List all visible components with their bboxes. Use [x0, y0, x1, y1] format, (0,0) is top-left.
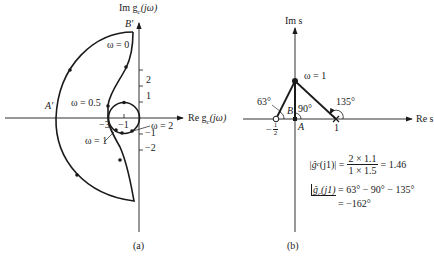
point-a-prime-label: A′	[45, 101, 53, 111]
zero-tick-sign: −	[266, 125, 272, 135]
y-axis-label-arg: (jω)	[141, 2, 158, 13]
zero-tick-den: 2	[274, 130, 278, 137]
angle-arc-63	[280, 112, 284, 119]
angle-90-label: 90°	[298, 104, 312, 114]
x-axis-label-main: Re g	[188, 112, 207, 123]
panel-b-caption: (b)	[287, 241, 299, 251]
panel-a-caption: (a)	[133, 241, 144, 251]
panel-b-y-axis-label: Im s	[285, 16, 303, 26]
x-axis-label-arg: (jω)	[210, 112, 227, 123]
magnitude-lhs: |ĝ	[309, 160, 317, 170]
panel-a-x-axis-label: Re gc(jω)	[188, 113, 226, 126]
point-b-label: B	[287, 106, 293, 116]
magnitude-lhs-arg: (j1)| =	[320, 160, 345, 170]
angle-135-label: 135°	[336, 97, 355, 107]
omega-1-point-label: ω = 1	[304, 71, 326, 81]
nyquist-outer-curve	[56, 32, 134, 201]
panel-b-x-axis-label: Re s	[416, 114, 434, 124]
leader-63	[272, 105, 281, 112]
y-axis-label-main: Im g	[119, 2, 138, 13]
angle-63-label: 63°	[257, 97, 271, 107]
y-tick-1: 1	[146, 91, 151, 101]
point-omega-1	[292, 78, 298, 84]
zero-tick-label: − 12	[266, 122, 278, 137]
pole-tick-label: 1	[334, 123, 339, 133]
x-tick-neg1: −1	[118, 120, 129, 130]
origin-pole-marker	[293, 117, 297, 121]
magnitude-result: = 1.46	[381, 160, 407, 170]
point-a-label: A	[298, 122, 304, 132]
omega-1-label: ω = 1	[85, 136, 107, 146]
omega-05-label: ω = 0.5	[71, 98, 101, 108]
magnitude-equation: |ĝc(j1)| = 2 × 1.11 × 1.5 = 1.46	[309, 153, 406, 176]
y-tick-neg1: −1	[145, 128, 156, 138]
magnitude-denominator: 1 × 1.5	[348, 165, 376, 176]
y-tick-2: 2	[146, 75, 151, 85]
phase-lhs-arg: (j1)	[321, 184, 335, 195]
panel-a-y-axis-label: Im gc(jω)	[119, 3, 157, 16]
point-b-prime-label: B′	[125, 19, 133, 29]
phase-equation: ĝc(j1) = 63° − 90° − 135°	[311, 185, 414, 198]
magnitude-numerator: 2 × 1.1	[347, 153, 377, 165]
phase-result: = −162°	[338, 199, 371, 209]
x-tick-neg3: −3	[99, 120, 110, 130]
y-tick-neg2: −2	[145, 143, 156, 153]
omega-0-label: ω = 0	[107, 40, 129, 50]
phase-rhs: = 63° − 90° − 135°	[338, 184, 414, 195]
